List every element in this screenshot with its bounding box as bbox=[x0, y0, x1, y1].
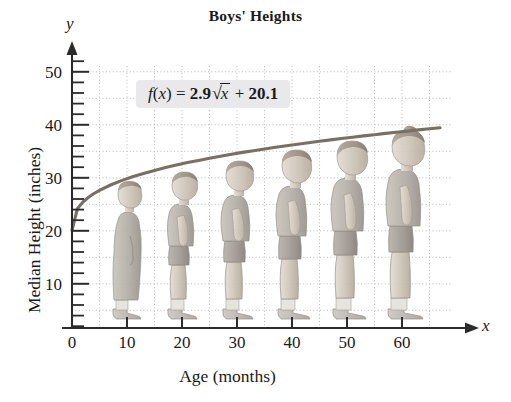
x-tick-label-20: 20 bbox=[168, 333, 196, 353]
y-axis-arrow bbox=[67, 41, 78, 55]
boy-figure bbox=[221, 161, 254, 319]
boy-figure bbox=[386, 126, 425, 319]
boy-figure bbox=[276, 150, 312, 319]
y-tick-label-40: 40 bbox=[24, 116, 62, 136]
x-tick-label-10: 10 bbox=[113, 333, 141, 353]
boy-figure bbox=[331, 141, 368, 319]
formula-plus: + bbox=[235, 84, 245, 103]
formula-arg: x bbox=[158, 84, 166, 103]
formula-radical-arg: x bbox=[220, 83, 231, 104]
x-tick-label-50: 50 bbox=[333, 333, 361, 353]
x-axis-variable-letter: x bbox=[482, 316, 490, 336]
function-formula-label: f(x) = 2.9√x + 20.1 bbox=[136, 80, 290, 108]
x-axis-title: Age (months) bbox=[0, 366, 455, 387]
boy-figure bbox=[113, 181, 142, 319]
y-axis-title: Median Height (inches) bbox=[24, 147, 45, 313]
y-axis-minor-ticks bbox=[72, 61, 84, 326]
formula-equals: = bbox=[176, 84, 186, 103]
x-tick-label-30: 30 bbox=[223, 333, 251, 353]
x-tick-label-60: 60 bbox=[388, 333, 416, 353]
y-axis-variable-letter: y bbox=[66, 14, 74, 34]
x-tick-label-40: 40 bbox=[278, 333, 306, 353]
formula-constant: 20.1 bbox=[249, 84, 279, 103]
boy-figure bbox=[168, 172, 199, 319]
formula-coefficient: 2.9 bbox=[190, 84, 211, 103]
formula-paren-close: ) bbox=[166, 84, 172, 103]
formula-radical: √x bbox=[211, 83, 230, 104]
x-tick-label-0: 0 bbox=[58, 333, 86, 353]
y-tick-label-50: 50 bbox=[24, 63, 62, 83]
chart-figure: Boys' Heights bbox=[0, 0, 511, 402]
x-axis-arrow bbox=[465, 323, 479, 334]
